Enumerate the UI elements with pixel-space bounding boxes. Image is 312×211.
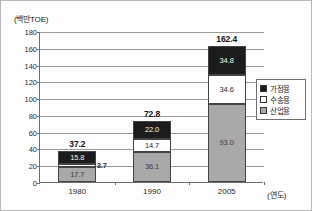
bar-segment-value: 22.0 — [145, 126, 159, 134]
y-axis-tick-label: 0 — [33, 179, 37, 188]
y-axis-tick-label: 140 — [24, 61, 37, 70]
x-axis-tick-mark — [115, 182, 116, 185]
bar-segment-residential[interactable]: 34.8 — [208, 46, 246, 75]
bar-segment-value: 3.7 — [97, 162, 107, 170]
y-axis-tick-label: 120 — [24, 78, 37, 87]
bar-segment-value: 17.7 — [70, 171, 84, 179]
bar-total-label: 72.8 — [133, 109, 171, 119]
bar-segment-value: 34.6 — [220, 86, 234, 94]
black-swatch-icon — [260, 85, 267, 92]
y-axis-unit-label: (백만TOE) — [14, 13, 48, 24]
bar-segment-residential[interactable]: 22.0 — [133, 121, 171, 139]
y-axis-tick-label: 40 — [29, 145, 37, 154]
legend-item-label: 수송용 — [270, 94, 290, 105]
chart-legend: 가정용수송용산업용 — [256, 79, 306, 120]
y-axis-tick-mark — [37, 149, 40, 150]
bar-segment-value: 34.8 — [220, 57, 234, 65]
y-axis-tick-label: 160 — [24, 44, 37, 53]
x-axis-tick-mark — [264, 182, 265, 185]
x-axis-tick-label: 1980 — [47, 187, 107, 196]
bar-segment-residential[interactable]: 15.8 — [58, 151, 96, 164]
bar-segment-value: 15.8 — [70, 154, 84, 162]
bar-segment-industrial[interactable]: 36.1 — [133, 152, 171, 182]
y-axis-tick-mark — [37, 82, 40, 83]
y-axis-tick-mark — [37, 49, 40, 50]
bar-group[interactable]: 36.114.722.072.8 — [133, 121, 171, 182]
y-axis-tick-mark — [37, 166, 40, 167]
bar-segment-transport[interactable]: 14.7 — [133, 139, 171, 151]
bar-total-label: 37.2 — [58, 139, 96, 149]
plot-area: 020406080100120140160180 17.73.715.837.2… — [39, 32, 263, 183]
x-axis-tick-mark — [189, 182, 190, 185]
legend-item[interactable]: 가정용 — [260, 83, 302, 94]
x-axis-tick-label: 2005 — [197, 187, 257, 196]
bar-segment-transport[interactable]: 34.6 — [208, 75, 246, 104]
y-axis-tick-mark — [37, 183, 40, 184]
legend-item-label: 가정용 — [270, 83, 290, 94]
bar-segment-transport[interactable]: 3.7 — [58, 164, 96, 167]
white-swatch-icon — [260, 96, 267, 103]
x-axis-tick-label: 1990 — [122, 187, 182, 196]
y-axis-tick-mark — [37, 116, 40, 117]
legend-item[interactable]: 수송용 — [260, 94, 302, 105]
gray-swatch-icon — [260, 107, 267, 114]
y-axis-tick-mark — [37, 32, 40, 33]
y-axis-tick-mark — [37, 66, 40, 67]
bar-group[interactable]: 17.73.715.837.2 — [58, 151, 96, 182]
legend-item-label: 산업용 — [270, 105, 290, 116]
bar-segment-industrial[interactable]: 17.7 — [58, 167, 96, 182]
y-axis-tick-mark — [37, 133, 40, 134]
y-axis-tick-label: 100 — [24, 95, 37, 104]
y-axis-tick-label: 80 — [29, 111, 37, 120]
bar-segment-value: 14.7 — [145, 142, 159, 150]
bar-segment-value: 93.0 — [220, 139, 234, 147]
chart-figure: (백만TOE) 020406080100120140160180 17.73.7… — [0, 0, 312, 211]
y-axis-tick-mark — [37, 99, 40, 100]
x-axis-title: (연도) — [267, 189, 286, 200]
y-axis-tick-label: 180 — [24, 28, 37, 37]
y-axis-tick-label: 60 — [29, 128, 37, 137]
bar-segment-industrial[interactable]: 93.0 — [208, 104, 246, 182]
bar-group[interactable]: 93.034.634.8162.4 — [208, 46, 246, 182]
bar-total-label: 162.4 — [208, 34, 246, 44]
bar-segment-value: 36.1 — [145, 163, 159, 171]
y-axis-tick-label: 20 — [29, 162, 37, 171]
legend-item[interactable]: 산업용 — [260, 105, 302, 116]
